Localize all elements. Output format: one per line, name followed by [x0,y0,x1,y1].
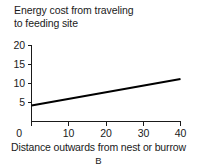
x-tick-label-20: 20 [100,127,112,139]
y-tick-label-15: 15 [14,58,26,70]
x-tick-label-10: 10 [63,127,75,139]
x-axis-label: Distance outwards from nest or burrow [0,141,197,153]
y-tick-label-10: 10 [14,77,26,89]
x-tick-label-40: 40 [175,127,187,139]
x-tick-label-30: 30 [138,127,150,139]
panel-label: B [0,155,197,166]
x-tick-label-0: 0 [16,127,22,139]
energy-cost-line [32,79,181,106]
y-tick-label-20: 20 [14,39,26,51]
figure-panel-b: Energy cost from traveling to feeding si… [0,0,197,168]
y-tick-label-5: 5 [19,96,25,108]
